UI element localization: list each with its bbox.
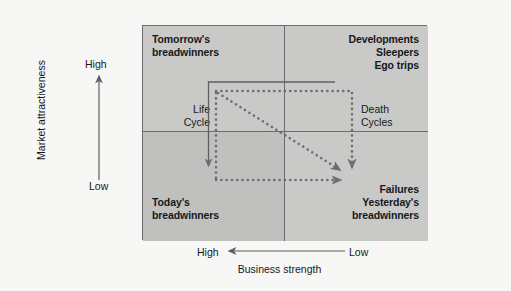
y-axis-high-label: High	[85, 58, 107, 70]
vertical-divider	[284, 26, 285, 241]
y-axis-low-label: Low	[89, 180, 108, 192]
quadrant-bottom-left	[143, 131, 284, 241]
figure-canvas: Tomorrow's breadwinners Developments Sle…	[0, 0, 511, 291]
y-axis-title: Market attractiveness	[35, 35, 47, 185]
horizontal-divider	[143, 131, 428, 132]
quadrant-label-failures: Failures Yesterday's breadwinners	[352, 183, 419, 222]
annotation-death-cycles: Death Cycles	[361, 103, 407, 129]
x-axis-low-label: Low	[349, 246, 368, 258]
quadrant-label-tomorrows-breadwinners: Tomorrow's breadwinners	[152, 33, 219, 59]
x-axis-high-label: High	[197, 246, 219, 258]
quadrant-label-todays-breadwinners: Today's breadwinners	[152, 196, 219, 222]
quadrant-label-developments: Developments Sleepers Ego trips	[348, 33, 419, 72]
x-axis-title: Business strength	[0, 263, 511, 275]
annotation-life-cycle: Life Cycle	[176, 103, 210, 129]
